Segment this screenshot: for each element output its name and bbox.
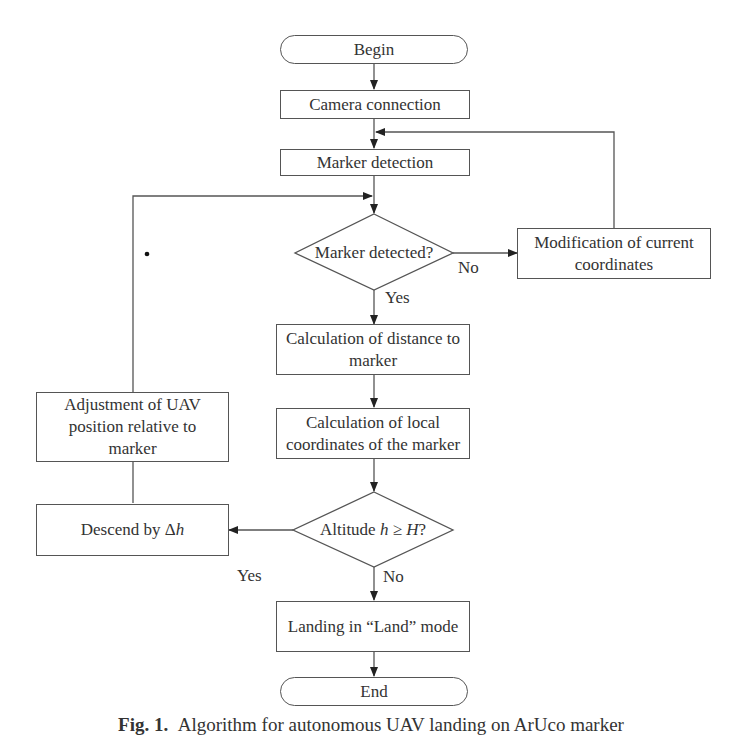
camera-connection-box: Camera connection [280,90,470,119]
marker-detection-box: Marker detection [280,149,470,176]
begin-label: Begin [354,39,395,61]
calc-distance-label: Calculation of distance to marker [283,328,463,372]
adjustment-box: Adjustment of UAV position relative to m… [36,392,229,462]
modification-label: Modification of current coordinates [526,232,702,276]
altitude-var-H: H [406,520,418,539]
adjustment-label: Adjustment of UAV position relative to m… [51,394,214,460]
calc-distance-box: Calculation of distance to marker [276,324,470,375]
edge-label-marker-yes: Yes [385,288,410,308]
altitude-text: Altitude [320,520,380,539]
marker-detected-question: Marker detected? [315,243,433,263]
figure-caption: Fig. 1. Algorithm for autonomous UAV lan… [0,714,742,735]
camera-connection-label: Camera connection [309,94,441,116]
caption-text: Algorithm for autonomous UAV landing on … [178,714,624,735]
descend-text: Descend by Δ [81,520,176,539]
edge-label-altitude-no: No [383,567,404,587]
descend-box: Descend by Δh [36,504,229,556]
end-terminal: End [280,677,468,706]
altitude-question: Altitude h ≥ H? [320,520,426,540]
caption-prefix: Fig. 1. [118,714,168,735]
modification-box: Modification of current coordinates [517,228,711,279]
calc-local-box: Calculation of local coordinates of the … [276,408,470,459]
landing-label: Landing in “Land” mode [288,616,458,638]
descend-label: Descend by Δh [81,519,184,541]
edge-label-marker-no: No [458,258,479,278]
stray-dot [145,252,150,257]
altitude-question-mark: ? [419,520,427,539]
descend-var-h: h [176,520,185,539]
end-label: End [360,681,387,703]
marker-detection-label: Marker detection [317,152,434,174]
begin-terminal: Begin [280,35,468,64]
calc-local-label: Calculation of local coordinates of the … [281,412,465,456]
landing-box: Landing in “Land” mode [276,601,470,652]
edge-label-altitude-yes: Yes [237,566,262,586]
altitude-operator: ≥ [388,520,406,539]
